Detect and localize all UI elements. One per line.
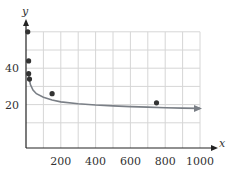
axes — [23, 19, 218, 151]
y-axis-arrow-icon — [23, 19, 29, 26]
y-tick-label: 20 — [5, 99, 19, 112]
data-point — [25, 29, 30, 34]
x-tick-label: 600 — [120, 155, 141, 168]
y-axis-label: y — [21, 5, 29, 18]
chart: 20040060080010002040 x y — [0, 0, 234, 184]
data-point — [154, 100, 159, 105]
x-axis-arrow-icon — [211, 145, 218, 151]
grid — [26, 32, 200, 148]
x-axis-label: x — [219, 137, 226, 150]
x-tick-label: 200 — [50, 155, 71, 168]
curve-arrow-icon — [194, 105, 202, 112]
x-tick-label: 400 — [85, 155, 106, 168]
x-tick-label: 1000 — [186, 155, 214, 168]
y-tick-label: 40 — [5, 62, 19, 75]
x-tick-label: 800 — [155, 155, 176, 168]
data-point — [26, 71, 31, 76]
data-point — [26, 58, 31, 63]
fit-curve-path — [29, 76, 200, 109]
data-points — [25, 29, 159, 105]
data-point — [50, 91, 55, 96]
data-point — [27, 77, 32, 82]
